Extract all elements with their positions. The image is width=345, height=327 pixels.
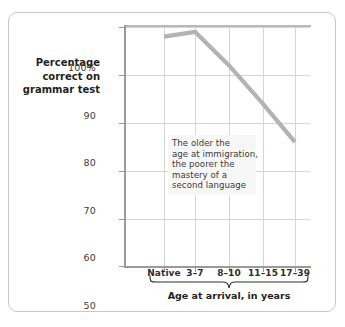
y-tick-label-80: 80 — [84, 157, 97, 168]
y-tick-mark-70 — [119, 171, 124, 172]
y-tick-mark-50 — [119, 266, 124, 267]
y-tick-label-90: 90 — [84, 110, 97, 121]
y-tick-mark-100 — [119, 27, 124, 28]
trend-callout-annotation: The older the age at immigration, the po… — [168, 135, 256, 195]
y-tick-label-60: 60 — [84, 252, 97, 263]
y-tick-label-100: 100% — [68, 62, 96, 73]
y-tick-mark-80 — [119, 123, 124, 124]
annotation-line-2: age at immigration, — [172, 149, 252, 160]
chart-figure: Percentage correct on grammar test 100% … — [0, 0, 345, 327]
y-tick-mark-90 — [119, 75, 124, 76]
x-axis-bracket — [148, 276, 310, 289]
annotation-line-4: mastery of a — [172, 170, 252, 181]
annotation-line-1: The older the — [172, 138, 252, 149]
y-tick-mark-60 — [119, 219, 124, 220]
y-tick-label-70: 70 — [84, 205, 97, 216]
annotation-line-3: the poorer the — [172, 159, 252, 170]
x-axis-title: Age at arrival, in years — [148, 290, 310, 301]
y-tick-label-50: 50 — [84, 300, 97, 311]
y-axis-title-line-3: grammar test — [23, 84, 100, 95]
series-polyline — [164, 32, 295, 142]
annotation-line-5: second language — [172, 180, 252, 191]
bracket-path — [150, 276, 308, 288]
